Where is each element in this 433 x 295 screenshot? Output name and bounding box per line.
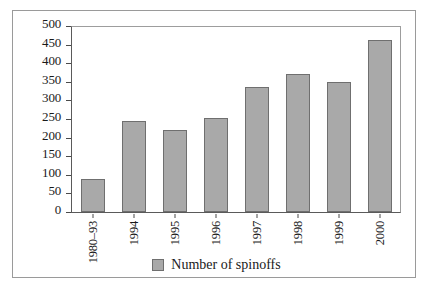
y-axis-tick-label: 0 xyxy=(55,203,61,216)
y-axis-tick-label: 300 xyxy=(42,91,61,104)
bar xyxy=(368,40,392,212)
x-axis-tick-label: 1994 xyxy=(127,221,140,245)
y-axis-tick-label: 400 xyxy=(42,54,61,67)
x-axis-tick-label: 1999 xyxy=(333,221,346,245)
x-axis-tick-mark xyxy=(339,214,340,218)
x-axis-tick-mark xyxy=(380,214,381,218)
y-axis: 050100150200250300350400450500 xyxy=(0,26,71,213)
bar-slot xyxy=(237,26,278,212)
bar xyxy=(122,121,146,212)
x-axis-tick-label: 1997 xyxy=(251,221,264,245)
bar xyxy=(204,118,228,212)
y-axis-tick-label: 450 xyxy=(42,36,61,49)
x-axis-tick-mark xyxy=(257,214,258,218)
x-axis-tick-label: 1998 xyxy=(292,221,305,245)
x-axis-tick-mark xyxy=(133,214,134,218)
bar-slot xyxy=(154,26,195,212)
bar xyxy=(81,179,105,212)
x-axis-tick-mark xyxy=(174,214,175,218)
y-axis-tick-label: 250 xyxy=(42,110,61,123)
x-axis-tick-label: 1980–93 xyxy=(86,221,99,263)
x-axis-tick-label: 2000 xyxy=(374,221,387,245)
bar-series-number-of-spinoffs xyxy=(72,26,401,212)
x-axis-tick-label: 1996 xyxy=(209,221,222,245)
x-axis-tick-mark xyxy=(298,214,299,218)
bar xyxy=(286,74,310,212)
y-axis-tick-label: 200 xyxy=(42,129,61,142)
y-axis-tick-label: 350 xyxy=(42,73,61,86)
y-axis-tick-label: 100 xyxy=(42,166,61,179)
bar-slot xyxy=(360,26,401,212)
bar xyxy=(327,82,351,212)
bar xyxy=(245,87,269,212)
legend-label-number-of-spinoffs: Number of spinoffs xyxy=(171,258,280,272)
y-axis-tick-label: 50 xyxy=(48,184,61,197)
bar-slot xyxy=(72,26,113,212)
x-axis-tick-label: 1995 xyxy=(168,221,181,245)
x-axis-tick-mark xyxy=(215,214,216,218)
bar-chart-figure: 050100150200250300350400450500 1980–9319… xyxy=(0,0,433,295)
x-axis-tick-mark xyxy=(92,214,93,218)
bar-slot xyxy=(319,26,360,212)
chart-legend: Number of spinoffs xyxy=(0,258,433,272)
bar-slot xyxy=(113,26,154,212)
y-axis-tick-label: 150 xyxy=(42,147,61,160)
legend-swatch-number-of-spinoffs xyxy=(152,259,164,271)
y-axis-tick-label: 500 xyxy=(42,17,61,30)
bar xyxy=(163,130,187,212)
bar-slot xyxy=(278,26,319,212)
bar-slot xyxy=(195,26,236,212)
